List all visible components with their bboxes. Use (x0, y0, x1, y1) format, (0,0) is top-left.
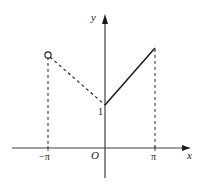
y-value-one-label: 1 (98, 107, 103, 117)
plot-area (0, 0, 199, 195)
curve-right-branch-solid (105, 48, 155, 105)
tick-label-pi: π (151, 152, 156, 162)
open-circle-endpoint-icon (45, 52, 51, 58)
math-graph-figure: y x O −π π 1 (0, 0, 199, 195)
y-axis-label: y (91, 12, 96, 23)
origin-label: O (91, 150, 99, 161)
y-axis-arrow (102, 14, 108, 24)
tick-label-neg-pi: −π (39, 152, 50, 162)
x-axis-label: x (187, 150, 192, 161)
curve-left-branch-dashed (50, 57, 105, 105)
